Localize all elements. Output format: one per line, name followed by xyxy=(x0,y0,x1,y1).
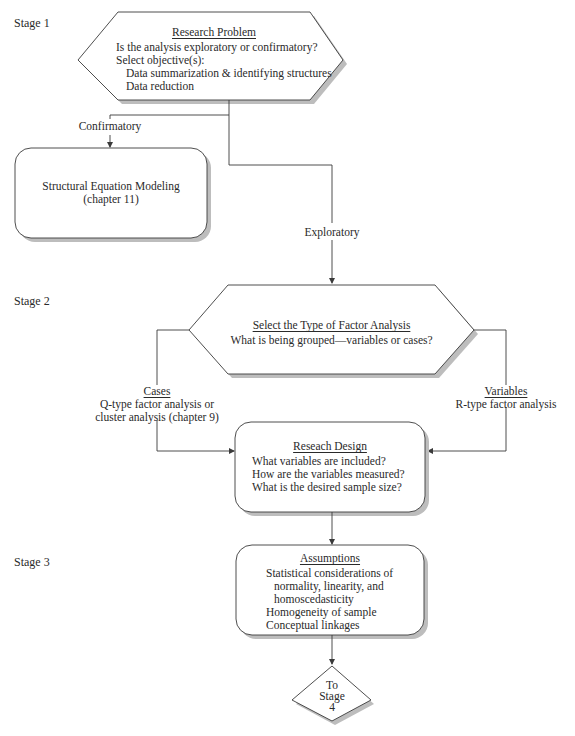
stage-1-label: Stage 1 xyxy=(14,16,50,31)
cases-line2: cluster analysis (chapter 9) xyxy=(77,411,237,424)
research-design-item: What is the desired sample size? xyxy=(252,481,402,494)
assumptions-item: homoscedasticity xyxy=(274,593,354,606)
factor-type-question: What is being grouped—variables or cases… xyxy=(189,334,474,347)
assumptions-item: Statistical considerations of xyxy=(266,567,393,580)
exploratory-label: Exploratory xyxy=(292,226,372,239)
to-stage4-line3: 4 xyxy=(302,702,362,713)
stage-2-label: Stage 2 xyxy=(14,294,50,309)
cases-title: Cases xyxy=(117,385,197,398)
research-problem-title: Research Problem xyxy=(118,26,310,39)
objective-item: Data reduction xyxy=(126,80,194,93)
factor-type-title: Select the Type of Factor Analysis xyxy=(189,319,474,332)
variables-title: Variables xyxy=(466,385,546,398)
research-design-item: How are the variables measured? xyxy=(252,468,405,481)
assumptions-item: Conceptual linkages xyxy=(266,619,360,632)
assumptions-title: Assumptions xyxy=(236,552,424,565)
cases-line1: Q-type factor analysis or xyxy=(77,398,237,411)
objective-item: Data summarization & identifying structu… xyxy=(126,67,332,80)
sem-box-line1: Structural Equation Modeling xyxy=(15,180,207,193)
sem-box-line2: (chapter 11) xyxy=(15,193,207,206)
variables-line1: R-type factor analysis xyxy=(436,398,575,411)
assumptions-item: normality, linearity, and xyxy=(274,580,384,593)
objectives-label: Select objective(s): xyxy=(116,54,204,67)
assumptions-item: Homogeneity of sample xyxy=(266,606,377,619)
stage-3-label: Stage 3 xyxy=(14,555,50,570)
confirmatory-label: Confirmatory xyxy=(70,120,150,133)
research-design-item: What variables are included? xyxy=(252,455,386,468)
research-design-title: Reseach Design xyxy=(235,440,425,453)
research-problem-question: Is the analysis exploratory or confirmat… xyxy=(116,41,318,54)
